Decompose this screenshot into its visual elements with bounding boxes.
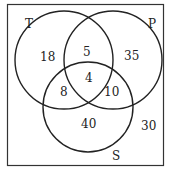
set-s-label: S [112, 149, 120, 163]
region-t-p: 5 [83, 45, 91, 59]
region-s-only: 40 [81, 117, 96, 131]
region-outside: 30 [141, 119, 156, 133]
venn-diagram: T P S 18 5 35 4 8 10 40 30 [0, 0, 170, 171]
region-p-only: 35 [124, 49, 139, 63]
set-t-label: T [25, 17, 33, 31]
set-p-label: P [148, 17, 156, 31]
region-t-only: 18 [40, 50, 55, 64]
region-p-s: 10 [104, 85, 119, 99]
region-t-s: 8 [60, 85, 68, 99]
region-t-p-s: 4 [85, 71, 93, 85]
